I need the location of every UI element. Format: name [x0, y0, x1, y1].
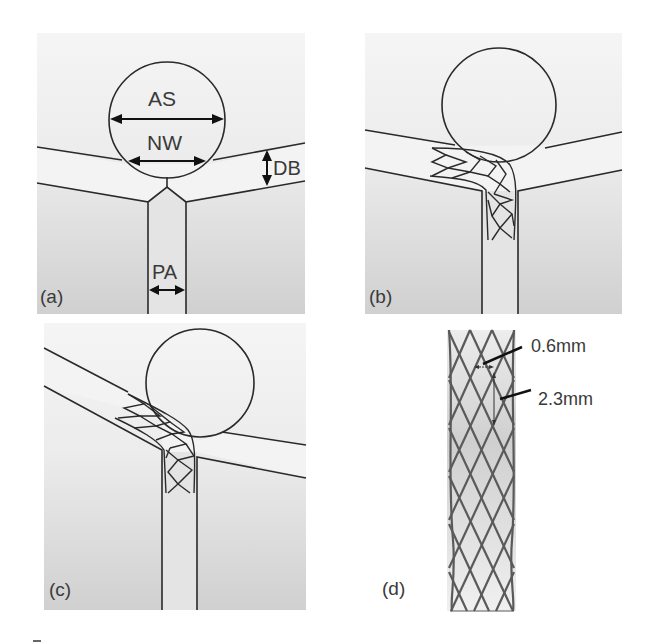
stent-deployment-figure: AS NW DB PA (a) (b) (c) (d) 0.6mm 2.3mm — [0, 0, 654, 642]
panel-b — [365, 33, 622, 314]
pa-label: PA — [152, 262, 177, 282]
panel-c-label: (c) — [49, 580, 71, 599]
strut-width-label: 0.6mm — [531, 337, 586, 355]
nw-label: NW — [147, 132, 182, 153]
cell-length-label: 2.3mm — [538, 390, 593, 408]
db-label: DB — [273, 158, 301, 178]
panel-b-label: (b) — [369, 287, 392, 306]
panel-d-label: (d) — [382, 579, 405, 598]
as-label: AS — [148, 88, 176, 109]
panel-a-label: (a) — [40, 287, 63, 306]
figure-canvas — [0, 0, 654, 642]
panel-c — [44, 323, 306, 610]
panel-d — [447, 330, 531, 611]
